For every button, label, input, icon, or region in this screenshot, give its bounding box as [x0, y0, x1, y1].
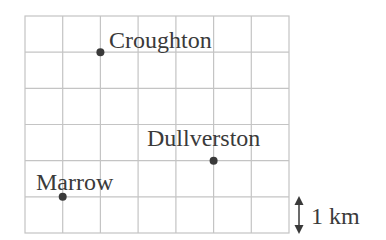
scale-arrow-icon: [295, 196, 304, 234]
scale-label: 1 km: [311, 204, 360, 228]
marrow-label: Marrow: [36, 170, 113, 194]
dullverston-point: [210, 157, 218, 165]
croughton-point: [96, 48, 104, 56]
croughton-label: Croughton: [109, 28, 212, 52]
dullverston-label: Dullverston: [147, 126, 260, 150]
